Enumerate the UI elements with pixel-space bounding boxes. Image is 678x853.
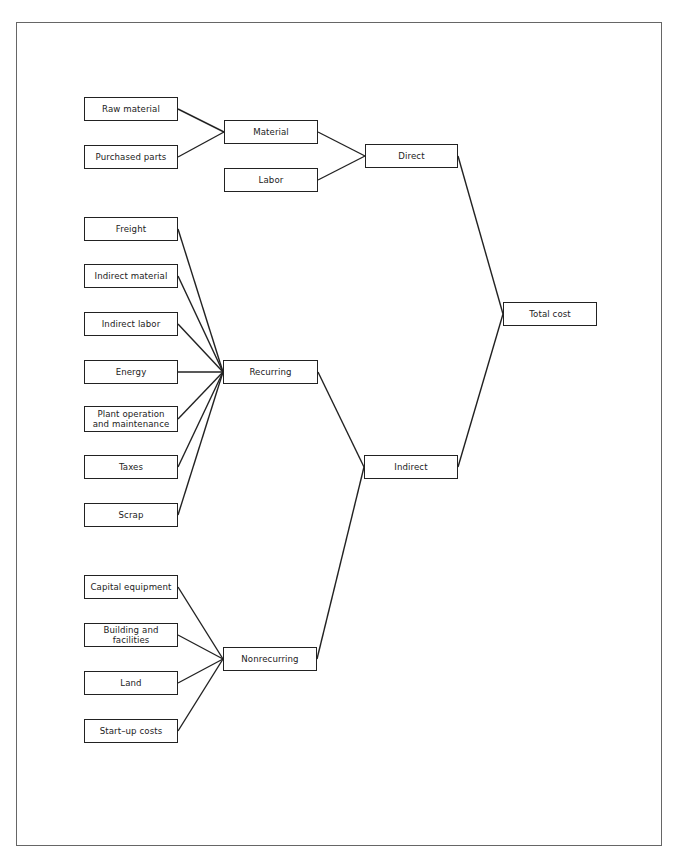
node-startup-costs: Start–up costs [84,719,178,743]
node-label: Building and facilities [85,625,177,645]
node-label: Indirect [394,462,427,472]
node-raw-material: Raw material [84,97,178,121]
node-label: Raw material [102,104,160,114]
node-total-cost: Total cost [503,302,597,326]
node-energy: Energy [84,360,178,384]
node-label: Recurring [249,367,291,377]
node-building-facilities: Building and facilities [84,623,178,647]
node-scrap: Scrap [84,503,178,527]
node-label: Land [120,678,141,688]
node-label-line1: Plant operation [97,409,164,419]
node-indirect: Indirect [364,455,458,479]
node-label: Nonrecurring [241,654,298,664]
node-direct: Direct [365,144,458,168]
node-indirect-material: Indirect material [84,264,178,288]
node-label: Direct [398,151,424,161]
node-label: Scrap [119,510,144,520]
node-label: Indirect material [95,271,168,281]
node-label: Taxes [119,462,143,472]
node-label: Purchased parts [96,152,167,162]
node-land: Land [84,671,178,695]
node-label: Energy [116,367,147,377]
node-nonrecurring: Nonrecurring [223,647,317,671]
node-label: Start–up costs [100,726,163,736]
node-label: Material [253,127,289,137]
node-plant-operation: Plant operationand maintenance [84,406,178,432]
node-label: Total cost [529,309,571,319]
node-label: Indirect labor [102,319,161,329]
node-labor: Labor [224,168,318,192]
node-material: Material [224,120,318,144]
node-taxes: Taxes [84,455,178,479]
node-recurring: Recurring [223,360,318,384]
node-purchased-parts: Purchased parts [84,145,178,169]
node-label: Capital equipment [90,582,171,592]
node-label-line2: and maintenance [93,419,170,429]
node-label: Labor [259,175,284,185]
node-indirect-labor: Indirect labor [84,312,178,336]
node-label: Freight [116,224,146,234]
node-capital-equipment: Capital equipment [84,575,178,599]
node-freight: Freight [84,217,178,241]
node-label: Plant operationand maintenance [93,409,170,429]
